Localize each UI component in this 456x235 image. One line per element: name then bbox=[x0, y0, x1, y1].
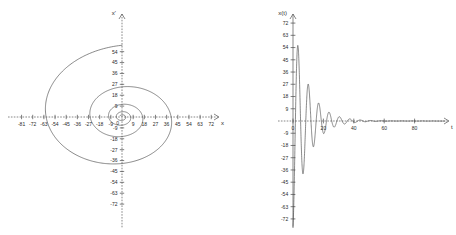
phase-origin-label: 0 bbox=[116, 120, 119, 126]
phase-y-tick-label: -63 bbox=[110, 190, 117, 196]
phase-y-tick-label: -27 bbox=[110, 147, 117, 153]
phase-y-tick-label: -54 bbox=[110, 179, 117, 185]
series-x-tick-label: -63 bbox=[281, 204, 288, 210]
phase-x-axis-label: x bbox=[221, 120, 224, 126]
series-t-tick-label: 60 bbox=[381, 125, 387, 131]
phase-x-tick-label: 72 bbox=[208, 121, 214, 127]
phase-y-tick-label: -72 bbox=[110, 201, 117, 207]
series-t-tick-group: 020406080 bbox=[292, 119, 418, 131]
phase-y-axis-label: x' bbox=[112, 10, 116, 16]
series-x-tick-label: 54 bbox=[283, 44, 289, 50]
phase-x-tick-label: 36 bbox=[164, 121, 170, 127]
phase-x-tick-label: 27 bbox=[153, 121, 159, 127]
series-x-tick-label: 36 bbox=[283, 69, 289, 75]
phase-x-tick-label: 63 bbox=[197, 121, 203, 127]
phase-portrait-svg: -81-72-63-54-45-36-27-18-991827364554637… bbox=[0, 0, 228, 235]
damped-oscillation-curve bbox=[293, 45, 445, 226]
series-y-axis-label: x(t) bbox=[278, 10, 287, 16]
series-x-tick-label: 45 bbox=[283, 57, 289, 63]
series-x-tick-label: 63 bbox=[283, 32, 289, 38]
series-t-tick-label: 40 bbox=[351, 125, 357, 131]
series-t-tick-label: 0 bbox=[292, 125, 295, 131]
phase-y-tick-label: 27 bbox=[112, 81, 118, 87]
phase-y-tick-label: 45 bbox=[112, 59, 118, 65]
series-x-tick-label: -9 bbox=[284, 130, 289, 136]
phase-x-tick-label: 54 bbox=[186, 121, 192, 127]
phase-x-tick-label: -63 bbox=[40, 121, 47, 127]
series-x-tick-label: -18 bbox=[281, 142, 288, 148]
phase-y-tick-label: -45 bbox=[110, 168, 117, 174]
phase-y-tick-label: 36 bbox=[112, 70, 118, 76]
series-x-tick-label: -36 bbox=[281, 167, 288, 173]
series-x-tick-label: 72 bbox=[283, 20, 289, 26]
time-series-panel: 020406080 726354453627189-9-18-27-36-45-… bbox=[228, 0, 456, 235]
phase-portrait-panel: -81-72-63-54-45-36-27-18-991827364554637… bbox=[0, 0, 228, 235]
series-t-tick-label: 80 bbox=[412, 125, 418, 131]
phase-x-tick-label: -72 bbox=[29, 121, 36, 127]
phase-x-tick-label: -54 bbox=[51, 121, 58, 127]
phase-y-tick-label: -36 bbox=[110, 157, 117, 163]
phase-x-tick-label: 9 bbox=[132, 121, 135, 127]
series-x-tick-label: 9 bbox=[285, 106, 288, 112]
phase-trajectory-curve bbox=[45, 45, 171, 164]
series-x-tick-label: -45 bbox=[281, 179, 288, 185]
series-x-tick-label: 27 bbox=[283, 81, 289, 87]
series-x-tick-label: -27 bbox=[281, 155, 288, 161]
time-series-svg: 020406080 726354453627189-9-18-27-36-45-… bbox=[228, 0, 456, 235]
series-x-tick-label: 18 bbox=[283, 93, 289, 99]
phase-y-tick-label: 18 bbox=[112, 92, 118, 98]
phase-x-tick-label: -81 bbox=[18, 121, 25, 127]
phase-x-tick-label: -45 bbox=[63, 121, 70, 127]
phase-x-tick-label: 45 bbox=[175, 121, 181, 127]
phase-y-tick-label: 54 bbox=[112, 49, 118, 55]
phase-x-tick-label: -18 bbox=[96, 121, 103, 127]
phase-x-tick-label: -36 bbox=[74, 121, 81, 127]
series-x-tick-label: -54 bbox=[281, 191, 288, 197]
series-x-tick-label: -72 bbox=[281, 216, 288, 222]
figure-root: -81-72-63-54-45-36-27-18-991827364554637… bbox=[0, 0, 456, 235]
series-x-axis-label: t bbox=[451, 124, 453, 130]
